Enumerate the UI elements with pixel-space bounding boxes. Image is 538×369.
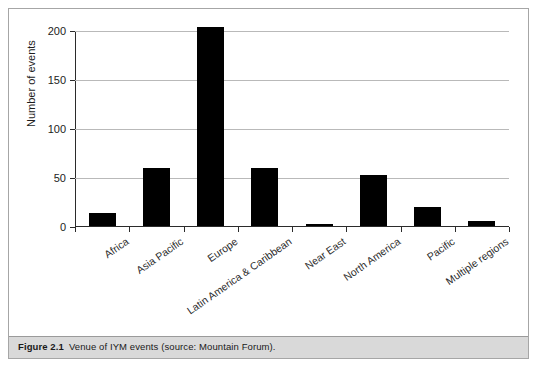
figure-root: Number of events 050100150200 AfricaAsia… (0, 0, 538, 369)
x-axis-label: Latin America & Caribbean (185, 235, 294, 316)
gridline (75, 178, 509, 179)
plot-box: 050100150200 (75, 31, 509, 227)
figure-caption-bar: Figure 2.1Venue of IYM events (source: M… (9, 336, 528, 358)
y-axis-title: Number of events (25, 40, 37, 127)
y-axis-tick (70, 80, 75, 81)
x-axis-label: Africa (102, 235, 131, 260)
figure-caption: Figure 2.1Venue of IYM events (source: M… (18, 341, 276, 352)
bar (251, 168, 278, 226)
x-axis-tick (509, 227, 510, 232)
x-axis-label: North America (341, 235, 402, 283)
chart-plot-panel: Number of events 050100150200 AfricaAsia… (9, 9, 528, 336)
gridline (75, 31, 509, 32)
x-axis-tick (238, 227, 239, 232)
figure-caption-text: Venue of IYM events (source: Mountain Fo… (69, 341, 276, 352)
x-axis-tick (129, 227, 130, 232)
x-axis-label: Pacific (424, 235, 456, 263)
bar (468, 221, 495, 226)
y-axis-tick (70, 31, 75, 32)
y-axis-tick-label: 0 (60, 221, 66, 233)
figure-number: Figure 2.1 (18, 341, 64, 352)
y-axis-tick-label: 50 (54, 172, 66, 184)
bar (360, 175, 387, 226)
bar (414, 207, 441, 226)
gridline (75, 129, 509, 130)
y-axis-tick-label: 100 (48, 123, 66, 135)
x-axis-label: Asia Pacific (134, 235, 185, 276)
bar (306, 224, 333, 226)
x-axis-tick (455, 227, 456, 232)
bar (143, 168, 170, 226)
x-axis-tick (292, 227, 293, 232)
y-axis-tick (70, 178, 75, 179)
gridline (75, 80, 509, 81)
bar (197, 27, 224, 226)
x-axis-label: Near East (303, 235, 348, 272)
y-axis-tick-label: 200 (48, 25, 66, 37)
y-axis-tick (70, 129, 75, 130)
x-axis-tick (75, 227, 76, 232)
y-axis-tick-label: 150 (48, 74, 66, 86)
x-axis-tick (184, 227, 185, 232)
x-axis-tick (401, 227, 402, 232)
x-axis-label: Europe (205, 235, 240, 264)
bar-chart: Number of events 050100150200 AfricaAsia… (9, 9, 530, 338)
bar (89, 213, 116, 226)
figure-frame: Number of events 050100150200 AfricaAsia… (8, 8, 529, 359)
x-axis-tick (346, 227, 347, 232)
